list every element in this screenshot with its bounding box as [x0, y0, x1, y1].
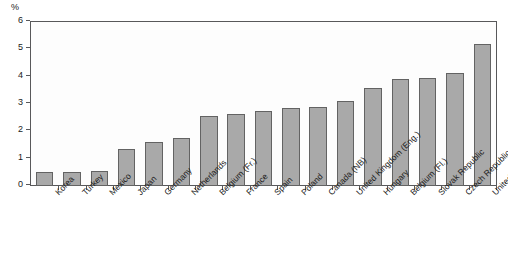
y-axis-tick-label: 4 — [18, 70, 23, 81]
x-axis-category-label: Czech Republic — [463, 190, 470, 197]
bar — [36, 172, 54, 186]
bar-slot — [36, 22, 54, 186]
x-axis-category-label: Mexico — [107, 190, 114, 197]
x-axis-category-label: Poland — [299, 190, 306, 197]
bar-slot — [227, 22, 245, 186]
bars-layer — [31, 22, 496, 186]
x-axis-category-label: Slovak Republic — [436, 190, 443, 197]
bar-slot — [63, 22, 81, 186]
bar-slot — [200, 22, 218, 186]
x-axis-category-label: Spain — [272, 190, 279, 197]
x-axis-category-label: United States — [490, 190, 497, 197]
y-axis-tick-label: 6 — [18, 15, 23, 26]
bar-slot — [309, 22, 327, 186]
bar-slot — [446, 22, 464, 186]
bar-slot — [173, 22, 191, 186]
x-axis-category-label: Belgium (Fr.) — [217, 190, 224, 197]
bar-chart: % 0123456 KoreaTurkeyMexicoJapanGermanyN… — [0, 0, 508, 274]
bar-slot — [118, 22, 136, 186]
x-axis-category-label: Hungary — [381, 190, 388, 197]
x-axis-category-label: Canada (NB) — [326, 190, 333, 197]
bar-slot — [282, 22, 300, 186]
y-axis-tick-label: 5 — [18, 42, 23, 53]
y-axis-tick-label: 2 — [18, 124, 23, 135]
x-axis-category-label: Germany — [162, 190, 169, 197]
x-axis-category-label: Turkey — [80, 190, 87, 197]
bar-slot — [337, 22, 355, 186]
x-axis-category-label: France — [244, 190, 251, 197]
bar-slot — [91, 22, 109, 186]
x-axis-category-label: Belgium (Fl.) — [408, 190, 415, 197]
x-axis-category-label: United Kingdom (Eng.) — [354, 190, 361, 197]
x-axis-category-label: Korea — [53, 190, 60, 197]
bar — [282, 108, 300, 186]
y-axis-tick-label: 0 — [18, 179, 23, 190]
x-axis-category-label: Japan — [135, 190, 142, 197]
bar-slot — [419, 22, 437, 186]
x-axis-category-label: Netherlands — [189, 190, 196, 197]
bar-slot — [145, 22, 163, 186]
y-axis-tick-label: 1 — [18, 152, 23, 163]
y-axis: 0123456 — [0, 21, 30, 186]
x-axis-labels: KoreaTurkeyMexicoJapanGermanyNetherlands… — [31, 190, 496, 274]
y-axis-unit-label: % — [11, 2, 19, 12]
y-axis-tick-label: 3 — [18, 97, 23, 108]
